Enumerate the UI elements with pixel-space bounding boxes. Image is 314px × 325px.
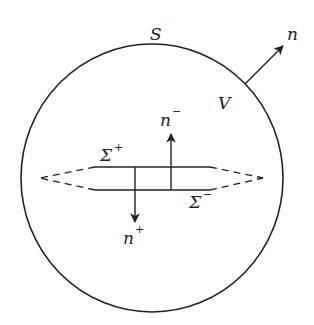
label-sigma-plus-base: Σ [99,145,113,165]
dashed-edge-left-upper [40,167,95,178]
label-n-minus: n − [160,105,181,130]
label-sigma-plus-sup: + [114,141,123,154]
label-volume-v: V [218,93,232,113]
label-n-minus-sup: − [172,105,181,118]
label-n-plus: n + [123,223,144,248]
dashed-edge-right-upper [210,167,263,178]
dashed-edge-right-lower [210,178,263,190]
label-n-minus-base: n [160,110,171,130]
diagram-canvas: S n V n − Σ + Σ − n + [0,0,314,325]
dashed-edge-left-lower [40,178,95,190]
label-n-plus-base: n [123,228,134,248]
label-sigma-plus: Σ + [99,141,123,165]
label-n-plus-sup: + [135,223,144,236]
label-sigma-minus: Σ − [188,188,212,212]
outer-normal-arrow [245,46,283,84]
boundary-surface-circle [21,44,283,312]
label-outer-normal-n: n [287,24,298,44]
label-surface-s: S [150,24,162,44]
label-sigma-minus-sup: − [203,188,212,201]
label-sigma-minus-base: Σ [188,192,202,212]
